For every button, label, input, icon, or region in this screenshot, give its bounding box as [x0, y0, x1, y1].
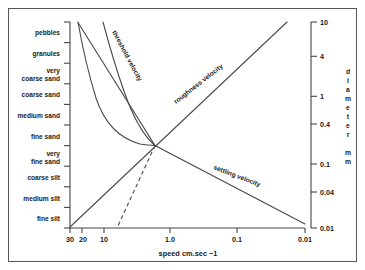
- y-right-tick-0.4: 0.4: [320, 120, 330, 129]
- x-tick-0.01: 0.01: [298, 235, 312, 244]
- svg-text:very: very: [46, 67, 60, 75]
- svg-text:e: e: [346, 122, 350, 129]
- svg-text:very: very: [46, 150, 60, 158]
- y-right-tick-10: 10: [320, 18, 328, 27]
- y-right-tick-1: 1: [320, 92, 324, 101]
- svg-text:coarse sand: coarse sand: [22, 75, 60, 82]
- x-axis-title: speed cm.sec −1: [159, 249, 218, 258]
- svg-text:r: r: [347, 131, 350, 138]
- left-axis-label-coarse-silt: coarse silt: [27, 174, 60, 181]
- chart-svg: pebbles granules very coarse sand coarse…: [0, 0, 365, 270]
- y-right-tick-0.01: 0.01: [320, 224, 334, 233]
- left-axis-label-pebbles: pebbles: [35, 29, 60, 37]
- svg-text:a: a: [346, 86, 350, 93]
- left-axis-label-medium-silt: medium silt: [23, 195, 60, 202]
- y-right-tick-0.04: 0.04: [320, 188, 334, 197]
- svg-text:i: i: [347, 77, 349, 84]
- svg-text:fine sand: fine sand: [31, 158, 60, 165]
- x-tick-30: 30: [66, 235, 74, 244]
- left-axis-label-fine-sand: fine sand: [31, 133, 60, 140]
- x-tick-20: 20: [79, 235, 87, 244]
- left-axis-label-medium-sand: medium sand: [17, 112, 60, 119]
- x-tick-10: 10: [100, 235, 108, 244]
- x-tick-1: 1.0: [165, 235, 175, 244]
- y-right-tick-0.1: 0.1: [320, 160, 330, 169]
- left-axis-label-granules: granules: [33, 50, 61, 58]
- svg-text:d: d: [346, 68, 350, 75]
- svg-text:m: m: [345, 95, 351, 102]
- x-tick-0.1: 0.1: [232, 235, 242, 244]
- svg-text:m: m: [345, 158, 351, 165]
- left-axis-label-coarse-sand: coarse sand: [22, 91, 60, 98]
- svg-text:m: m: [345, 149, 351, 156]
- left-axis-label-fine-silt: fine silt: [37, 215, 61, 222]
- svg-text:e: e: [346, 104, 350, 111]
- sediment-velocity-chart: pebbles granules very coarse sand coarse…: [0, 0, 365, 270]
- y-right-tick-4: 4: [320, 52, 324, 61]
